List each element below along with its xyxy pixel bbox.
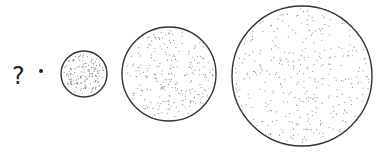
circle-sequence-diagram — [0, 0, 381, 155]
large-circle — [232, 6, 372, 146]
dot — [39, 69, 43, 73]
small-circle — [61, 51, 107, 97]
medium-circle — [122, 27, 216, 121]
